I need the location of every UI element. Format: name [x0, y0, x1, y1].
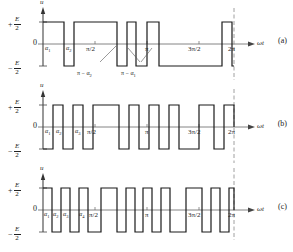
x-axis-arrow-c: [248, 208, 255, 213]
y-axis-label-minus-b: − E 2: [8, 143, 21, 159]
plus-sign-b: +: [8, 103, 13, 112]
y-axis-arrow-b: [41, 90, 45, 97]
alpha1-label-a: α1: [45, 45, 50, 53]
alpha3-label-b: α3: [75, 128, 80, 136]
y-axis-label-minus-a: − E 2: [8, 60, 21, 76]
alpha1-label-b: α1: [45, 128, 50, 136]
minus-sign-a: −: [8, 64, 13, 73]
y-axis-var-b: u: [40, 81, 44, 89]
alpha3-label-c: α3: [63, 211, 68, 219]
y-axis-zero-label-b: 0: [33, 121, 37, 130]
minus-sign-b: −: [8, 147, 13, 156]
three-pi-half-label-b: 3π/2: [188, 128, 200, 136]
alpha1-label-c: α1: [44, 211, 49, 219]
pi-half-label-a: π/2: [86, 45, 95, 53]
y-axis-arrow-a: [41, 7, 45, 14]
minus-sign-c: −: [8, 230, 13, 239]
amplitude-fraction-neg-b: E 2: [14, 143, 21, 159]
amplitude-fraction-neg-c: E 2: [14, 226, 21, 242]
panel-caption-b: (b): [278, 119, 287, 128]
three-pi-half-label-c: 3π/2: [188, 211, 200, 219]
two-pi-label-b: 2π: [228, 128, 235, 136]
y-axis-label-plus-c: + E 2: [8, 182, 21, 198]
annotation-pi-minus-alpha2: π − α2: [77, 70, 92, 78]
alpha2-label-c: α2: [53, 211, 58, 219]
waveform-plot-b: [0, 83, 293, 167]
waveform-panel-a: + E 2 − E 2 0 u ωt α1 α2 π/2 π 3π/2 2π π…: [0, 0, 293, 84]
amplitude-fraction-c: E 2: [14, 182, 21, 198]
waveform-plot-a: [0, 0, 293, 84]
y-axis-label-minus-c: − E 2: [8, 226, 21, 242]
amplitude-fraction-a: E 2: [14, 16, 21, 32]
pi-label-a: π: [145, 45, 149, 53]
alpha4-label-c: α4: [79, 211, 84, 219]
waveform-svg-c: [0, 166, 293, 250]
waveform-panel-c: + E 2 − E 2 0 u ωt α1 α2 α3 α4 π/2 π 3π/…: [0, 166, 293, 250]
x-axis-arrow-b: [248, 125, 255, 130]
pi-label-c: π: [145, 211, 149, 219]
waveform-svg-a: [0, 0, 293, 84]
waveform-panel-b: + E 2 − E 2 0 u ωt α1 α2 α3 π/2 π 3π/2 2…: [0, 83, 293, 167]
y-axis-arrow-c: [41, 173, 45, 180]
y-axis-label-plus-a: + E 2: [8, 16, 21, 32]
y-axis-label-plus-b: + E 2: [8, 99, 21, 115]
waveform-svg-b: [0, 83, 293, 167]
three-pi-half-label-a: 3π/2: [188, 45, 200, 53]
y-axis-zero-label-c: 0: [33, 204, 37, 213]
y-axis-zero-label-a: 0: [33, 38, 37, 47]
amplitude-fraction-b: E 2: [14, 99, 21, 115]
alpha2-label-b: α2: [56, 128, 61, 136]
pi-half-label-c: π/2: [89, 211, 98, 219]
x-axis-arrow-a: [248, 42, 255, 47]
panel-caption-c: (c): [278, 202, 287, 211]
annotation-pi-minus-alpha1: π − α1: [121, 70, 136, 78]
pi-half-label-b: π/2: [87, 128, 96, 136]
panel-caption-a: (a): [278, 36, 287, 45]
x-axis-var-b: ωt: [257, 122, 264, 130]
pi-label-b: π: [145, 128, 149, 136]
alpha2-label-a: α2: [66, 45, 71, 53]
y-axis-var-a: u: [40, 0, 44, 6]
x-axis-var-a: ωt: [257, 39, 264, 47]
leader-line-pi-minus-a2: [100, 46, 116, 62]
x-axis-var-c: ωt: [257, 205, 264, 213]
y-axis-var-c: u: [40, 164, 44, 172]
plus-sign-c: +: [8, 186, 13, 195]
leader-line-pi-minus-a1-left: [128, 48, 140, 62]
plus-sign-a: +: [8, 20, 13, 29]
waveform-plot-c: [0, 166, 293, 250]
amplitude-fraction-neg-a: E 2: [14, 60, 21, 76]
two-pi-label-a: 2π: [228, 45, 235, 53]
two-pi-label-c: 2π: [228, 211, 235, 219]
